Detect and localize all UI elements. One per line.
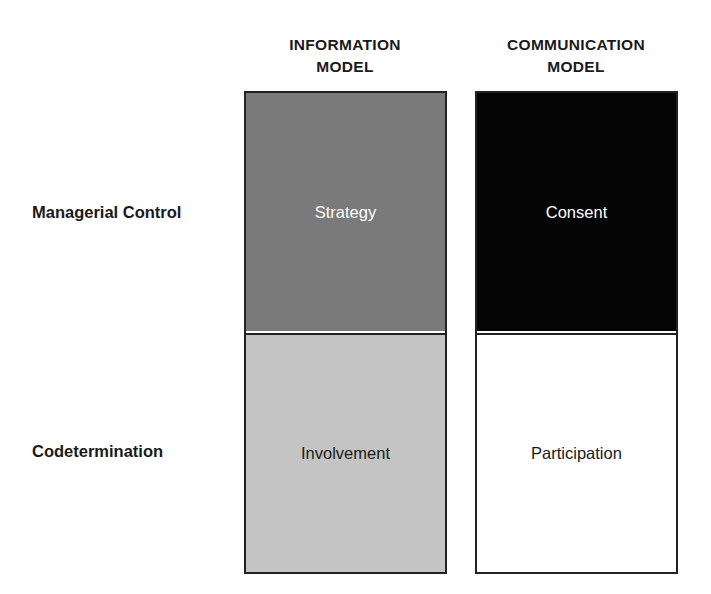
cell-label: Involvement [301,444,390,463]
cell-participation: Participation [477,333,676,572]
column-header-communication-model: COMMUNICATION MODEL [475,34,677,78]
cell-label: Strategy [315,203,376,222]
column-header-information-model: INFORMATION MODEL [244,34,446,78]
column-header-line2: MODEL [475,56,677,78]
communication-model-column: Consent Participation [475,91,678,574]
row-label-codetermination: Codetermination [32,442,163,461]
column-header-line2: MODEL [244,56,446,78]
cell-strategy: Strategy [246,93,445,331]
cell-label: Consent [546,203,607,222]
column-header-line1: INFORMATION [244,34,446,56]
row-label-managerial-control: Managerial Control [32,203,181,222]
information-model-column: Strategy Involvement [244,91,447,574]
column-header-line1: COMMUNICATION [475,34,677,56]
cell-consent: Consent [477,93,676,331]
cell-label: Participation [531,444,622,463]
cell-involvement: Involvement [246,333,445,572]
